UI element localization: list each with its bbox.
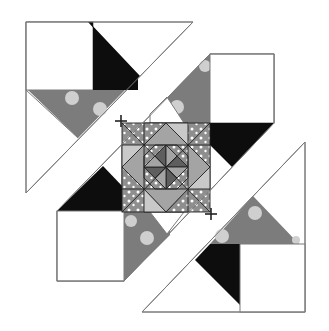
star-block: [122, 123, 210, 212]
circle-motif: [125, 215, 137, 227]
circle-motif: [292, 236, 300, 244]
quilt-diagram: [0, 0, 329, 331]
circle-motif: [65, 91, 79, 105]
circle-motif: [248, 206, 262, 220]
circle-motif: [140, 231, 154, 245]
circle-motif: [215, 229, 229, 243]
bottom-right-white-square: [240, 244, 305, 312]
center-white-square-bottom-left: [57, 211, 124, 281]
center-white-square-top-right: [210, 54, 274, 123]
top-left-white-square: [26, 22, 93, 90]
circle-motif: [199, 60, 211, 72]
circle-motif: [93, 102, 107, 116]
